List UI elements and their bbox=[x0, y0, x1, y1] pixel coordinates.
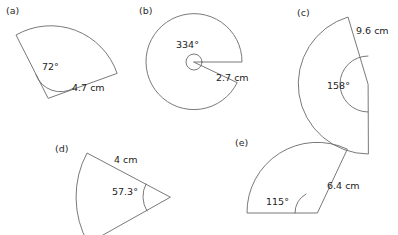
sectors-diagram: (a) 72° 4.7 cm (b) 334° 2.7 cm (c) 158° … bbox=[0, 0, 398, 235]
sector-b-angle-label: 334° bbox=[176, 39, 199, 50]
panel-label-d: (d) bbox=[55, 143, 68, 154]
panel-label-a: (a) bbox=[6, 5, 19, 16]
sector-a-group: (a) 72° 4.7 cm bbox=[6, 5, 117, 98]
sector-b-group: (b) 334° 2.7 cm bbox=[139, 5, 249, 110]
sector-c-angle-label: 158° bbox=[327, 80, 350, 91]
sector-e-angle-arc bbox=[295, 194, 306, 213]
sector-e-angle-label: 115° bbox=[266, 196, 289, 207]
panel-label-e: (e) bbox=[235, 137, 248, 148]
sector-e-radius-label: 6.4 cm bbox=[327, 180, 360, 191]
sector-c-radius-label: 9.6 cm bbox=[356, 25, 389, 36]
sector-c-group: (c) 158° 9.6 cm bbox=[297, 7, 389, 154]
panel-label-b: (b) bbox=[139, 5, 152, 16]
sector-a-angle-arc bbox=[36, 75, 74, 92]
sector-d-angle-arc bbox=[143, 184, 147, 211]
sector-b-outline bbox=[146, 14, 242, 110]
sector-d-radius-label: 4 cm bbox=[114, 154, 138, 165]
sector-b-radius-label: 2.7 cm bbox=[216, 72, 249, 83]
sector-a-angle-label: 72° bbox=[42, 61, 59, 72]
sector-a-radius-label: 4.7 cm bbox=[72, 82, 105, 93]
sector-d-group: (d) 57.3° 4 cm bbox=[55, 143, 170, 235]
sector-d-angle-label: 57.3° bbox=[112, 186, 138, 197]
panel-label-c: (c) bbox=[297, 7, 310, 18]
